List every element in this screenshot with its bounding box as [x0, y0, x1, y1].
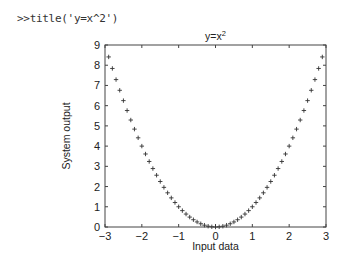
plus-marker [258, 196, 262, 200]
plus-marker [287, 144, 291, 148]
plus-marker [261, 191, 265, 195]
data-markers [106, 55, 324, 229]
plus-marker [106, 55, 110, 59]
plus-marker [250, 205, 254, 209]
plus-marker [254, 200, 258, 204]
plus-marker [272, 173, 276, 177]
plus-marker [246, 208, 250, 212]
x-tick-label: −2 [136, 230, 149, 242]
plus-marker [165, 191, 169, 195]
x-tick-label: 1 [249, 230, 255, 242]
plus-marker [243, 212, 247, 216]
plus-marker [235, 218, 239, 222]
plus-marker [176, 205, 180, 209]
plus-marker [302, 108, 306, 112]
plus-marker [121, 98, 125, 102]
plus-marker [114, 77, 118, 81]
plus-marker [118, 88, 122, 92]
y-axis-label: System output [60, 102, 72, 169]
x-tick-label: 2 [286, 230, 292, 242]
plus-marker [305, 98, 309, 102]
y-tick-label: 0 [94, 221, 100, 233]
plus-marker [313, 77, 317, 81]
y-tick-label: 9 [94, 39, 100, 51]
plus-marker [309, 88, 313, 92]
plus-marker [265, 185, 269, 189]
plus-marker [184, 212, 188, 216]
x-axis-label: Input data [192, 240, 239, 252]
y-tick-label: 4 [94, 140, 100, 152]
plus-marker [269, 179, 273, 183]
plus-marker [217, 225, 221, 229]
plus-marker [180, 208, 184, 212]
plus-marker [151, 166, 155, 170]
plus-marker [173, 200, 177, 204]
plus-marker [316, 66, 320, 70]
y-tick-label: 6 [94, 100, 100, 112]
plus-marker [158, 179, 162, 183]
y-tick-label: 3 [94, 160, 100, 172]
plus-marker [280, 159, 284, 163]
y-tick-label: 5 [94, 120, 100, 132]
plus-marker [191, 218, 195, 222]
plus-marker [154, 173, 158, 177]
y-tick-label: 2 [94, 181, 100, 193]
y-tick-label: 8 [94, 59, 100, 71]
plus-marker [129, 118, 133, 122]
plus-marker [276, 166, 280, 170]
plus-marker [110, 66, 114, 70]
plus-marker [147, 159, 151, 163]
plus-marker [136, 136, 140, 140]
x-tick-label: −3 [99, 230, 112, 242]
chart-title: y=x2 [205, 29, 226, 42]
plus-marker [294, 127, 298, 131]
x-tick-label: 3 [323, 230, 329, 242]
axis-ticks: −3−2−101230123456789 [94, 39, 329, 242]
plus-marker [140, 144, 144, 148]
plus-marker [206, 224, 210, 228]
plus-marker [221, 224, 225, 228]
plus-marker [132, 127, 136, 131]
plus-marker [291, 136, 295, 140]
y-tick-label: 1 [94, 201, 100, 213]
plus-marker [162, 185, 166, 189]
plus-marker [125, 108, 129, 112]
plot-figure: −3−2−101230123456789 y=x2 Input data Sys… [0, 0, 343, 260]
plus-marker [320, 55, 324, 59]
plus-marker [188, 215, 192, 219]
plus-marker [143, 152, 147, 156]
x-tick-label: −1 [172, 230, 185, 242]
y-tick-label: 7 [94, 79, 100, 91]
plus-marker [283, 152, 287, 156]
plus-marker [239, 215, 243, 219]
plus-marker [298, 118, 302, 122]
plus-marker [169, 196, 173, 200]
